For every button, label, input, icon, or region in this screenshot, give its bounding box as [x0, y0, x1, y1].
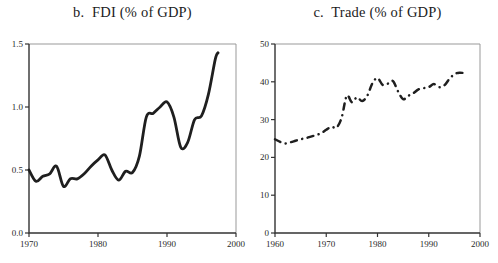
x-tick-label: 1970	[20, 239, 39, 249]
x-tick-label: 1990	[420, 239, 439, 249]
x-tick-label: 1960	[266, 239, 285, 249]
x-tick-label: 1980	[89, 239, 108, 249]
trade-line-chart: 0102030405019601970198019902000	[249, 0, 498, 263]
plot-frame-light	[275, 44, 480, 233]
panel-trade: c. Trade (% of GDP) 01020304050196019701…	[249, 0, 498, 263]
x-tick-label: 2000	[227, 239, 246, 249]
y-tick-label: 1.5	[12, 39, 24, 49]
y-tick-label: 10	[260, 190, 270, 200]
plot-frame-light	[29, 44, 236, 233]
x-tick-label: 2000	[471, 239, 490, 249]
y-tick-label: 1.0	[12, 102, 24, 112]
y-tick-label: 40	[260, 77, 270, 87]
fdi-line-chart: 0.00.51.01.51970198019902000	[0, 0, 249, 263]
x-tick-label: 1990	[158, 239, 177, 249]
trade-series-line	[275, 73, 467, 144]
x-tick-label: 1970	[317, 239, 336, 249]
y-tick-label: 0	[265, 228, 270, 238]
plot-frame-axes	[29, 44, 236, 233]
y-tick-label: 0.0	[12, 228, 24, 238]
y-tick-label: 0.5	[12, 165, 24, 175]
plot-frame-axes	[275, 44, 480, 233]
panel-fdi: b. FDI (% of GDP) 0.00.51.01.51970198019…	[0, 0, 249, 263]
y-tick-label: 20	[260, 152, 270, 162]
y-tick-label: 50	[260, 39, 270, 49]
figure-canvas: b. FDI (% of GDP) 0.00.51.01.51970198019…	[0, 0, 498, 263]
x-tick-label: 1980	[369, 239, 388, 249]
fdi-series-line	[29, 53, 218, 187]
y-tick-label: 30	[260, 115, 270, 125]
